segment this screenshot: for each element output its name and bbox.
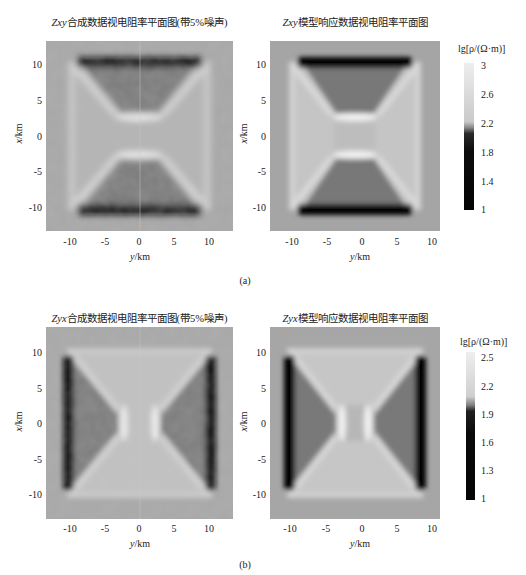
x-tick: 5 (395, 236, 400, 247)
x-tick: 0 (137, 236, 142, 247)
x-tick: 5 (172, 523, 177, 534)
panel-label-b: (b) (239, 559, 251, 570)
y-tick: -10 (244, 202, 266, 213)
x-tick: 10 (204, 523, 214, 534)
y-tick: 10 (20, 347, 42, 358)
y-tick: -10 (244, 489, 266, 500)
plot-b-left-title: Zyx合成数据视电阻率平面图(带5%噪声) (46, 310, 233, 325)
x-axis-label: y/km (350, 251, 370, 262)
y-tick: 5 (244, 95, 266, 106)
heatmap-a-left (46, 41, 233, 231)
y-tick: -5 (20, 454, 42, 465)
colorbar-b (466, 352, 475, 500)
y-axis-label: x/km (238, 411, 249, 431)
heatmap-a-right-image (270, 41, 440, 231)
x-tick: -10 (63, 523, 76, 534)
colorbar-a (464, 63, 474, 210)
y-tick: -10 (20, 202, 42, 213)
plot-a-right-title: Zxy模型响应数据视电阻率平面图 (270, 14, 440, 29)
x-tick: 5 (172, 236, 177, 247)
x-tick: 5 (395, 523, 400, 534)
x-axis-label: y/km (350, 538, 370, 549)
x-tick: 10 (204, 236, 214, 247)
colorbar-tick: 1 (481, 204, 486, 215)
y-tick: -5 (244, 454, 266, 465)
colorbar-tick: 1.3 (481, 465, 494, 476)
colorbar-tick: 2.2 (481, 118, 494, 129)
y-tick: 10 (244, 59, 266, 70)
x-tick: 0 (137, 523, 142, 534)
plot-b-right-title: Zyx模型响应数据视电阻率平面图 (270, 310, 440, 325)
heatmap-b-left-image (46, 327, 233, 519)
heatmap-a-right (270, 41, 440, 231)
heatmap-a-left-image (46, 41, 233, 231)
colorbar-b-label: lg[ρ/(Ω·m)] (460, 336, 507, 347)
y-axis-label: x/km (13, 411, 24, 431)
panel-label-a: (a) (239, 275, 250, 286)
colorbar-tick: 1.4 (481, 176, 494, 187)
x-tick: 10 (427, 523, 437, 534)
colorbar-tick: 2.6 (481, 89, 494, 100)
x-tick: -5 (323, 236, 331, 247)
x-tick: 0 (360, 523, 365, 534)
x-tick: 0 (360, 236, 365, 247)
colorbar-tick: 3 (481, 60, 486, 71)
y-tick: 5 (244, 383, 266, 394)
colorbar-tick: 1.9 (481, 409, 494, 420)
colorbar-tick: 1.6 (481, 437, 494, 448)
y-tick: -10 (20, 489, 42, 500)
heatmap-b-left (46, 327, 233, 519)
x-tick: -5 (101, 523, 109, 534)
colorbar-tick: 2.5 (481, 352, 494, 363)
y-tick: 5 (20, 383, 42, 394)
plot-a-left-title: Zxy合成数据视电阻率平面图(带5%噪声) (46, 14, 233, 29)
x-tick: -5 (101, 236, 109, 247)
heatmap-b-right (270, 327, 440, 519)
y-tick: 10 (20, 59, 42, 70)
x-axis-label: y/km (130, 538, 150, 549)
x-axis-label: y/km (130, 251, 150, 262)
y-tick: 5 (20, 95, 42, 106)
x-tick: -10 (285, 236, 298, 247)
colorbar-tick: 1.8 (481, 147, 494, 158)
x-tick: 10 (427, 236, 437, 247)
colorbar-tick: 2.2 (481, 381, 494, 392)
heatmap-b-right-image (270, 327, 440, 519)
y-axis-label: x/km (238, 123, 249, 143)
y-tick: -5 (20, 166, 42, 177)
x-tick: -10 (283, 523, 296, 534)
x-tick: -5 (322, 523, 330, 534)
x-tick: -10 (63, 236, 76, 247)
y-axis-label: x/km (13, 123, 24, 143)
y-tick: 10 (244, 347, 266, 358)
y-tick: -5 (244, 166, 266, 177)
colorbar-a-label: lg[ρ/(Ω·m)] (458, 43, 505, 54)
colorbar-tick: 1 (481, 493, 486, 504)
